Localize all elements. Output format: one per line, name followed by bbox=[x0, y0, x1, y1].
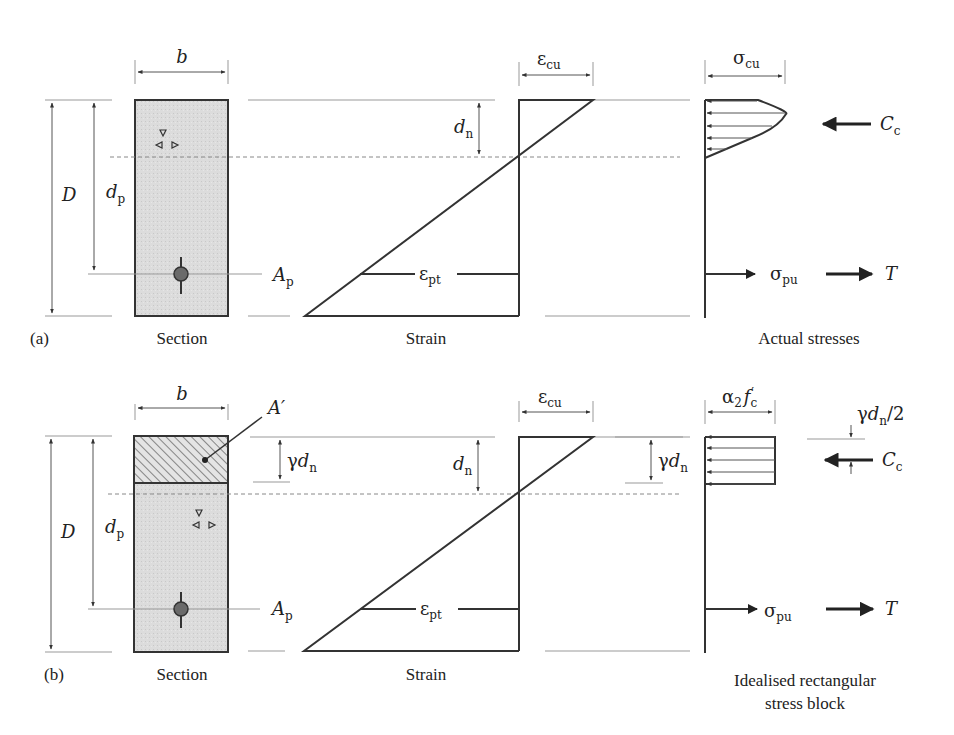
stress-a: σcu Cc σpu T Actual stresses bbox=[705, 47, 901, 348]
panel-tag: (a) bbox=[30, 329, 49, 348]
alpha-fc-label: α2fc′ bbox=[722, 386, 757, 410]
depth-label: D bbox=[61, 184, 77, 205]
strain-a: εcu εpt dn Strain bbox=[248, 48, 690, 348]
cc-label: Cc bbox=[882, 449, 903, 474]
stress-caption-line2: stress block bbox=[765, 694, 845, 713]
strain-b: εcu εpt dn Strain bbox=[248, 386, 690, 684]
scu-label: σcu bbox=[733, 47, 760, 71]
depth-label: D bbox=[60, 521, 76, 542]
gdn-label: γdn bbox=[287, 450, 317, 475]
compression-area-hatched bbox=[134, 436, 228, 483]
stress-caption: Actual stresses bbox=[758, 329, 860, 348]
tendon-label: Ap bbox=[270, 598, 293, 623]
gdn-label: γdn bbox=[658, 450, 688, 475]
spu-label: σpu bbox=[764, 600, 792, 624]
ecu-label: εcu bbox=[537, 48, 561, 72]
ecu-label: εcu bbox=[538, 386, 562, 410]
section-b: b A′ D dp Ap (b) Section bbox=[44, 383, 293, 684]
t-label: T bbox=[885, 263, 899, 284]
tendon-label: Ap bbox=[271, 264, 294, 289]
width-label: b bbox=[176, 383, 188, 404]
section-caption: Section bbox=[157, 329, 208, 348]
section-a: b D dp Ap (a) Section bbox=[30, 46, 294, 348]
flexure-diagram: b D dp Ap (a) Section bbox=[0, 0, 954, 735]
width-label: b bbox=[176, 46, 188, 67]
panel-tag: (b) bbox=[44, 665, 64, 684]
section-caption: Section bbox=[157, 665, 208, 684]
dp-label: dp bbox=[105, 516, 125, 541]
tendon-circle bbox=[174, 602, 188, 616]
panel-b: b A′ D dp Ap (b) Section bbox=[44, 383, 905, 713]
area-label: A′ bbox=[266, 397, 285, 418]
t-label: T bbox=[885, 598, 899, 619]
strain-caption: Strain bbox=[406, 329, 447, 348]
stress-caption-line1: Idealised rectangular bbox=[734, 671, 876, 690]
tendon-circle bbox=[174, 267, 188, 281]
dn-label: dn bbox=[453, 453, 473, 478]
panel-a: b D dp Ap (a) Section bbox=[30, 46, 901, 348]
spu-label: σpu bbox=[770, 263, 798, 287]
half-gdn-label: γdn/2 bbox=[857, 403, 905, 428]
dp-label: dp bbox=[106, 181, 126, 206]
strain-caption: Strain bbox=[406, 665, 447, 684]
dn-label: dn bbox=[454, 116, 474, 141]
stress-b: α2fc′ γdn γdn/2 Cc σpu T Idealis bbox=[615, 386, 905, 713]
cc-label: Cc bbox=[880, 113, 901, 138]
